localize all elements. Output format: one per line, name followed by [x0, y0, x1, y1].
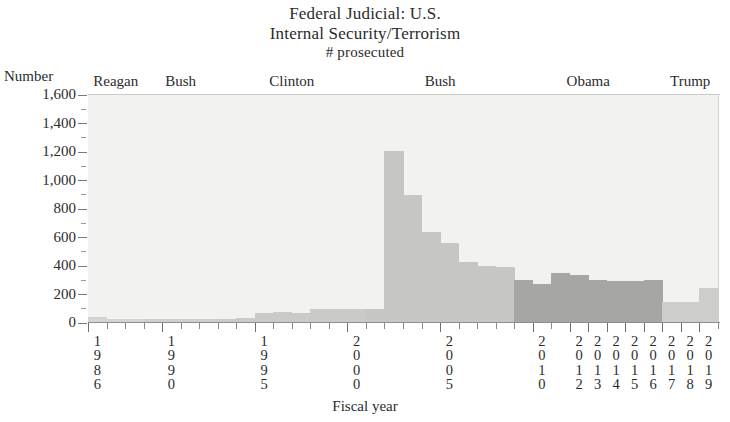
y-axis-labels: 02004006008001,0001,2001,4001,600 [0, 0, 76, 422]
y-tick-1400 [78, 123, 87, 124]
x-label-digit: 9 [163, 348, 179, 362]
x-label-digit: 2 [608, 334, 624, 348]
x-tick-label-2000: 2000 [349, 334, 365, 391]
bar-2008 [496, 267, 515, 323]
x-label-digit: 1 [682, 363, 698, 377]
bar-2016 [644, 280, 663, 323]
x-label-digit: 2 [441, 334, 457, 348]
bar-2019 [699, 288, 718, 323]
y-tick-1000 [78, 180, 87, 181]
bar-2015 [625, 281, 644, 323]
y-tick-label-800: 800 [4, 201, 76, 216]
y-tick-label-1200: 1,200 [4, 144, 76, 159]
x-label-digit: 8 [89, 363, 105, 377]
x-tick-10 [273, 323, 274, 329]
x-label-digit: 0 [441, 363, 457, 377]
bar-2010 [533, 284, 552, 323]
x-tick-34 [718, 323, 719, 329]
x-major-tick-2015 [625, 323, 626, 332]
president-label-reagan-1986: Reagan [93, 73, 138, 90]
x-label-digit: 1 [608, 363, 624, 377]
y-tick-label-600: 600 [4, 230, 76, 245]
president-label-bush-1989: Bush [165, 73, 196, 90]
x-tick-label-2017: 2017 [664, 334, 680, 391]
x-tick-11 [292, 323, 293, 329]
bar-2005 [440, 243, 459, 323]
bar-2014 [607, 281, 626, 323]
bar-1999 [329, 309, 348, 323]
chart-subtitle: # prosecuted [0, 44, 730, 62]
x-label-digit: 2 [571, 334, 587, 348]
x-label-digit: 1 [163, 334, 179, 348]
x-tick-6 [199, 323, 200, 329]
x-tick-22 [496, 323, 497, 329]
x-label-digit: 2 [664, 334, 680, 348]
y-tick-label-1000: 1,000 [4, 173, 76, 188]
bar-2009 [514, 280, 533, 323]
x-tick-label-2018: 2018 [682, 334, 698, 391]
x-label-digit: 0 [534, 377, 550, 391]
x-tick-25 [551, 323, 552, 329]
x-label-digit: 0 [571, 348, 587, 362]
bar-2011 [551, 273, 570, 323]
x-label-digit: 0 [608, 348, 624, 362]
x-tick-label-2019: 2019 [701, 334, 717, 391]
x-label-digit: 9 [163, 363, 179, 377]
x-tick-label-2010: 2010 [534, 334, 550, 391]
chart-title-block: Federal Judicial: U.S. Internal Security… [0, 4, 730, 62]
x-label-digit: 1 [256, 334, 272, 348]
x-label-digit: 6 [89, 377, 105, 391]
bar-2000 [347, 309, 366, 323]
x-label-digit: 0 [349, 348, 365, 362]
x-label-digit: 1 [590, 363, 606, 377]
x-label-digit: 1 [627, 363, 643, 377]
x-label-digit: 2 [682, 334, 698, 348]
x-major-tick-2013 [588, 323, 589, 332]
chart-title-line-1: Federal Judicial: U.S. [0, 4, 730, 24]
y-tick-600 [78, 237, 87, 238]
x-major-tick-2014 [607, 323, 608, 332]
x-tick-label-1986: 1986 [89, 334, 105, 391]
x-tick-13 [329, 323, 330, 329]
bar-2004 [422, 232, 441, 323]
x-tick-label-1995: 1995 [256, 334, 272, 391]
x-label-digit: 9 [701, 377, 717, 391]
x-label-digit: 2 [627, 334, 643, 348]
bar-2003 [403, 195, 422, 323]
bar-2017 [662, 302, 681, 323]
x-tick-label-2014: 2014 [608, 334, 624, 391]
x-tick-label-2012: 2012 [571, 334, 587, 391]
x-label-digit: 2 [590, 334, 606, 348]
bar-series [88, 95, 718, 323]
x-major-tick-2018 [681, 323, 682, 332]
x-label-digit: 2 [349, 334, 365, 348]
x-tick-17 [403, 323, 404, 329]
x-label-digit: 0 [701, 348, 717, 362]
x-tick-20 [459, 323, 460, 329]
x-major-tick-2010 [533, 323, 534, 332]
x-tick-12 [310, 323, 311, 329]
president-label-obama-2009: Obama [567, 73, 610, 90]
x-axis-title: Fiscal year [0, 398, 730, 415]
x-tick-label-2016: 2016 [645, 334, 661, 391]
y-minor-tick-700 [81, 223, 86, 224]
x-label-digit: 7 [664, 377, 680, 391]
y-tick-label-1600: 1,600 [4, 87, 76, 102]
y-tick-800 [78, 209, 87, 210]
bar-2002 [384, 151, 403, 323]
x-major-tick-1990 [162, 323, 163, 332]
bar-2006 [459, 262, 478, 323]
bar-2012 [570, 275, 589, 323]
x-label-digit: 0 [441, 348, 457, 362]
bar-2018 [681, 302, 700, 323]
x-tick-label-2005: 2005 [441, 334, 457, 391]
x-label-digit: 2 [645, 334, 661, 348]
y-tick-400 [78, 266, 87, 267]
x-label-digit: 0 [664, 348, 680, 362]
x-major-tick-2012 [570, 323, 571, 332]
x-tick-5 [181, 323, 182, 329]
y-tick-label-200: 200 [4, 287, 76, 302]
x-label-digit: 1 [89, 334, 105, 348]
x-tick-2 [125, 323, 126, 329]
x-label-digit: 8 [682, 377, 698, 391]
